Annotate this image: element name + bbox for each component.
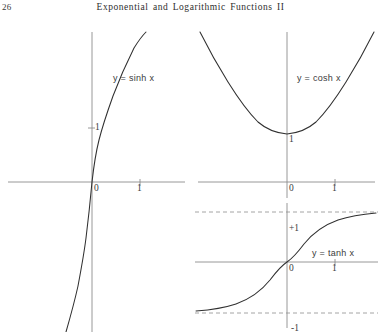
panel-cosh: y = cosh x 1 0 1 <box>190 18 381 198</box>
cosh-x-tick-label: 1 <box>332 183 337 193</box>
sinh-x-tick-label: 1 <box>137 183 142 193</box>
cosh-origin-label: 0 <box>289 183 294 193</box>
sinh-y-tick-label: 1 <box>95 122 100 132</box>
panel-tanh: +1 -1 y = tanh x 0 1 <box>190 198 381 332</box>
cosh-plot <box>190 18 381 198</box>
tanh-lower-asymptote-label: -1 <box>291 323 299 332</box>
textbook-page: 26 Exponential and Logarithmic Functions… <box>0 0 381 332</box>
tanh-plot <box>190 198 381 332</box>
figure-hyperbolic-functions: y = sinh x 1 0 1 y = cosh x 1 0 1 <box>0 18 381 332</box>
tanh-x-tick-label: 1 <box>332 263 337 273</box>
tanh-origin-label: 0 <box>289 263 294 273</box>
running-head: Exponential and Logarithmic Functions II <box>0 2 381 12</box>
tanh-upper-asymptote-label: +1 <box>289 223 299 233</box>
panel-sinh: y = sinh x 1 0 1 <box>0 18 190 332</box>
sinh-origin-label: 0 <box>94 183 99 193</box>
cosh-curve-label: y = cosh x <box>297 73 341 83</box>
sinh-plot <box>0 18 190 332</box>
cosh-y-tick-label: 1 <box>289 134 294 144</box>
tanh-curve-label: y = tanh x <box>312 248 354 258</box>
sinh-curve-label: y = sinh x <box>113 73 154 83</box>
